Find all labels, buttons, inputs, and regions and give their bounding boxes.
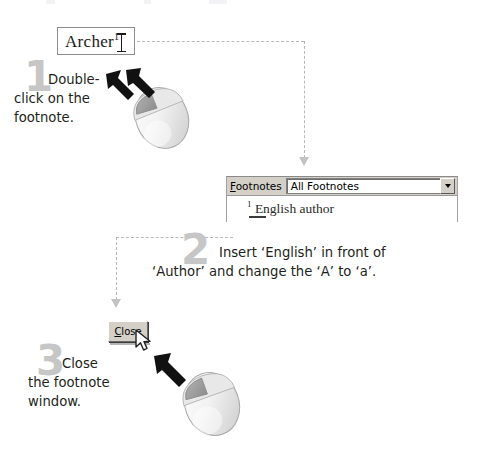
- footnotes-pane: Footnotes All Footnotes 1 English author: [226, 176, 458, 222]
- cropped-text-remnant: [46, 0, 55, 4]
- footnotes-scope-select[interactable]: All Footnotes: [286, 178, 440, 194]
- step-1-line-1: Double-: [48, 72, 100, 87]
- step-2-line-1: Insert ‘English’ in front of: [219, 245, 386, 260]
- connector-1-horizontal: [137, 41, 304, 42]
- mouse-double-click-illustration: [104, 68, 208, 152]
- step-3-line-2: the footnote: [28, 375, 110, 390]
- archer-text-frame[interactable]: Archer1: [57, 27, 135, 55]
- footnotes-scope-value: All Footnotes: [287, 180, 359, 192]
- cropped-text-remnant: [144, 0, 151, 4]
- connector-1-arrowhead: [299, 157, 309, 166]
- step-2-line-2: ‘Author’ and change the ‘A’ to ‘a’.: [152, 264, 376, 279]
- mouse-pointer-icon: [134, 329, 154, 353]
- connector-2-arrowhead: [111, 299, 121, 308]
- connector-2-horizontal: [116, 237, 233, 238]
- footnote-entry-text: English author: [255, 201, 334, 216]
- step-1-line-3: footnote.: [14, 110, 74, 125]
- footnote-entry-marker: 1: [247, 199, 252, 209]
- footnotes-toolbar: Footnotes All Footnotes: [227, 177, 457, 196]
- footnote-underline: [249, 216, 266, 218]
- double-click-arrows: [106, 68, 155, 100]
- step-2-text: Insert ‘English’ in front of ‘Author’ an…: [185, 243, 445, 281]
- archer-text: Archer1: [65, 31, 119, 52]
- connector-2-vertical: [116, 237, 117, 300]
- step-3-text: Close the footnote window.: [28, 354, 158, 411]
- footnote-entry[interactable]: 1 English author: [247, 199, 457, 217]
- single-click-arrow: [154, 353, 186, 387]
- step-3-line-3: window.: [28, 394, 81, 409]
- text-cursor-icon: [117, 32, 126, 53]
- instruction-diagram: Archer1 1 Double- click on the footnote.: [0, 0, 481, 476]
- step-1-line-2: click on the: [14, 91, 90, 106]
- footnotes-label-rest: ootnotes: [236, 180, 282, 192]
- cropped-text-remnant: [209, 0, 227, 4]
- mouse-single-click-illustration: [150, 352, 260, 444]
- connector-1-vertical: [304, 41, 305, 158]
- footnotes-label: Footnotes: [230, 180, 286, 192]
- footnotes-edit-area[interactable]: 1 English author: [227, 196, 457, 223]
- step-3-line-1: Close: [62, 356, 98, 371]
- chevron-down-icon[interactable]: [440, 178, 455, 194]
